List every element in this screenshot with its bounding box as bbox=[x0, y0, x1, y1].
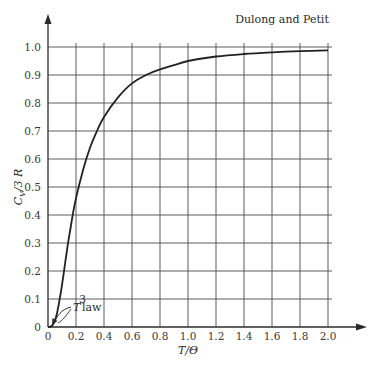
x-tick-label: 0.6 bbox=[124, 330, 141, 342]
svg-text:CV/3 R: CV/3 R bbox=[12, 169, 27, 206]
x-axis-label: T/Θ bbox=[178, 344, 198, 357]
y-axis-arrow-icon bbox=[45, 14, 52, 24]
y-tick-label: 0.2 bbox=[24, 265, 41, 277]
x-tick-label: 0.8 bbox=[152, 330, 169, 342]
x-tick-label: 0 bbox=[45, 330, 52, 342]
y-tick-label: 1.0 bbox=[24, 41, 41, 53]
x-tick-labels: 00.20.40.60.81.01.21.41.61.82.0 bbox=[45, 330, 337, 342]
grid-lines bbox=[48, 43, 332, 327]
x-tick-label: 0.2 bbox=[68, 330, 85, 342]
y-tick-label: 0.3 bbox=[24, 237, 41, 249]
y-tick-label: 0.4 bbox=[24, 209, 41, 221]
y-label-rest: /3 R bbox=[12, 169, 25, 192]
y-tick-label: 0 bbox=[34, 321, 41, 333]
y-tick-label: 0.9 bbox=[24, 69, 41, 81]
debye-heat-capacity-chart: 00.10.20.30.40.50.60.70.80.91.0 00.20.40… bbox=[0, 0, 370, 366]
x-tick-label: 1.2 bbox=[208, 330, 225, 342]
x-tick-label: 1.6 bbox=[264, 330, 281, 342]
y-tick-label: 0.6 bbox=[24, 153, 41, 165]
y-axis-label: CV/3 R bbox=[12, 169, 27, 206]
y-tick-label: 0.8 bbox=[24, 97, 41, 109]
x-tick-label: 1.0 bbox=[180, 330, 197, 342]
axes bbox=[45, 14, 368, 331]
y-tick-label: 0.1 bbox=[24, 293, 41, 305]
x-axis-arrow-icon bbox=[356, 324, 367, 331]
x-tick-label: 2.0 bbox=[320, 330, 337, 342]
t3-law-text: law bbox=[82, 301, 102, 314]
t3-arrow-2 bbox=[58, 309, 71, 323]
x-tick-label: 0.4 bbox=[96, 330, 113, 342]
x-tick-label: 1.8 bbox=[292, 330, 309, 342]
y-tick-label: 0.7 bbox=[24, 125, 41, 137]
dulong-petit-label: Dulong and Petit bbox=[235, 13, 329, 26]
y-tick-labels: 00.10.20.30.40.50.60.70.80.91.0 bbox=[24, 41, 41, 333]
x-tick-label: 1.4 bbox=[236, 330, 253, 342]
